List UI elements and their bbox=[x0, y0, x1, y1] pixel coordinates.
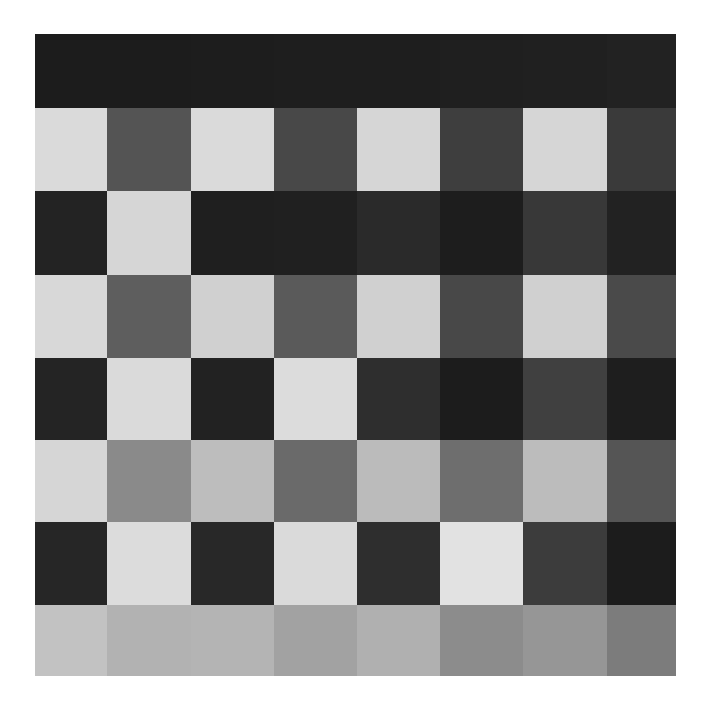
board-cell-r4-c3 bbox=[274, 358, 357, 440]
board-cell-r3-c2 bbox=[191, 275, 274, 358]
board-cell-r1-c7 bbox=[607, 108, 676, 191]
board-cell-r6-c5 bbox=[440, 522, 523, 605]
board-cell-r7-c4 bbox=[357, 605, 440, 676]
board-cell-r2-c0 bbox=[35, 191, 107, 275]
board-cell-r7-c0 bbox=[35, 605, 107, 676]
board-cell-r7-c2 bbox=[191, 605, 274, 676]
board-cell-r0-c6 bbox=[523, 34, 607, 108]
board-cell-r2-c5 bbox=[440, 191, 523, 275]
board-cell-r7-c5 bbox=[440, 605, 523, 676]
board-cell-r1-c5 bbox=[440, 108, 523, 191]
board-cell-r6-c7 bbox=[607, 522, 676, 605]
board-cell-r5-c6 bbox=[523, 440, 607, 522]
board-cell-r7-c6 bbox=[523, 605, 607, 676]
board-cell-r4-c1 bbox=[107, 358, 191, 440]
board-cell-r2-c6 bbox=[523, 191, 607, 275]
board-cell-r4-c6 bbox=[523, 358, 607, 440]
board-cell-r7-c3 bbox=[274, 605, 357, 676]
board-cell-r2-c4 bbox=[357, 191, 440, 275]
board-cell-r5-c7 bbox=[607, 440, 676, 522]
board-cell-r0-c4 bbox=[357, 34, 440, 108]
board-cell-r5-c2 bbox=[191, 440, 274, 522]
board-cell-r6-c3 bbox=[274, 522, 357, 605]
board-cell-r5-c4 bbox=[357, 440, 440, 522]
board-cell-r2-c1 bbox=[107, 191, 191, 275]
board-cell-r6-c2 bbox=[191, 522, 274, 605]
board-cell-r3-c5 bbox=[440, 275, 523, 358]
grayscale-checker-board bbox=[35, 34, 676, 676]
board-cell-r3-c6 bbox=[523, 275, 607, 358]
board-cell-r0-c2 bbox=[191, 34, 274, 108]
board-cell-r3-c1 bbox=[107, 275, 191, 358]
board-cell-r7-c7 bbox=[607, 605, 676, 676]
board-cell-r4-c0 bbox=[35, 358, 107, 440]
board-cell-r6-c4 bbox=[357, 522, 440, 605]
board-cell-r6-c6 bbox=[523, 522, 607, 605]
board-cell-r1-c4 bbox=[357, 108, 440, 191]
board-cell-r6-c0 bbox=[35, 522, 107, 605]
board-cell-r4-c2 bbox=[191, 358, 274, 440]
board-cell-r6-c1 bbox=[107, 522, 191, 605]
board-cell-r3-c7 bbox=[607, 275, 676, 358]
board-cell-r0-c3 bbox=[274, 34, 357, 108]
board-cell-r0-c5 bbox=[440, 34, 523, 108]
board-cell-r5-c0 bbox=[35, 440, 107, 522]
board-cell-r5-c1 bbox=[107, 440, 191, 522]
board-cell-r3-c0 bbox=[35, 275, 107, 358]
board-cell-r0-c7 bbox=[607, 34, 676, 108]
board-cell-r0-c1 bbox=[107, 34, 191, 108]
board-cell-r1-c2 bbox=[191, 108, 274, 191]
board-cell-r3-c4 bbox=[357, 275, 440, 358]
board-cell-r5-c3 bbox=[274, 440, 357, 522]
board-cell-r2-c2 bbox=[191, 191, 274, 275]
board-cell-r4-c7 bbox=[607, 358, 676, 440]
board-cell-r0-c0 bbox=[35, 34, 107, 108]
board-cell-r7-c1 bbox=[107, 605, 191, 676]
board-cell-r1-c0 bbox=[35, 108, 107, 191]
board-cell-r5-c5 bbox=[440, 440, 523, 522]
board-cell-r4-c5 bbox=[440, 358, 523, 440]
board-cell-r3-c3 bbox=[274, 275, 357, 358]
board-cell-r1-c3 bbox=[274, 108, 357, 191]
board-cell-r2-c3 bbox=[274, 191, 357, 275]
board-cell-r4-c4 bbox=[357, 358, 440, 440]
board-cell-r2-c7 bbox=[607, 191, 676, 275]
board-cell-r1-c6 bbox=[523, 108, 607, 191]
board-cell-r1-c1 bbox=[107, 108, 191, 191]
